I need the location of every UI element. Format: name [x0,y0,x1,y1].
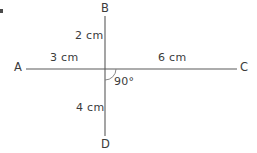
measure-label-ao: 3 cm [50,52,78,63]
vertex-label-c: C [240,62,248,74]
measure-label-od: 4 cm [76,102,104,113]
measure-label-oc: 6 cm [158,52,186,63]
vertex-label-d: D [101,139,110,151]
geometry-figure-canvas: A B C D 2 cm 3 cm 6 cm 4 cm 90° [0,0,257,153]
measure-label-ob: 2 cm [75,30,103,41]
vertex-label-b: B [101,3,109,15]
angle-label-90: 90° [114,76,134,87]
vertex-label-a: A [14,62,22,74]
